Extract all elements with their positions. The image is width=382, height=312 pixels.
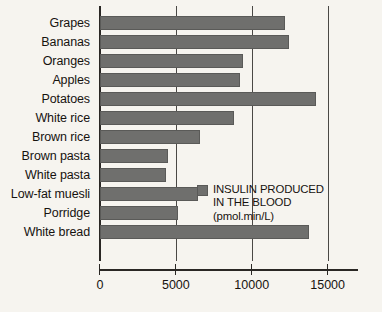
- bar-white-rice: [100, 111, 234, 125]
- bar-white-pasta: [100, 168, 166, 182]
- y-axis-label-low-fat-muesli: Low-fat muesli: [0, 185, 96, 204]
- x-axis-tick-5000: [175, 264, 176, 275]
- legend-label-line1: INSULIN PRODUCED: [213, 183, 324, 196]
- bar-bananas: [100, 35, 289, 49]
- legend-swatch-insulin: [197, 185, 208, 196]
- y-axis-label-white-bread: White bread: [0, 223, 96, 242]
- bar-white-bread: [100, 225, 309, 239]
- legend-label-units: (pmol.min/L): [213, 210, 324, 223]
- bar-grapes: [100, 16, 285, 30]
- y-axis-label-apples: Apples: [0, 71, 96, 90]
- gridline-15000: [328, 6, 329, 261]
- y-axis-label-white-rice: White rice: [0, 109, 96, 128]
- plot-area: [100, 14, 358, 261]
- x-axis-tick-15000: [327, 264, 328, 275]
- y-axis-label-oranges: Oranges: [0, 52, 96, 71]
- bar-brown-rice: [100, 130, 200, 144]
- legend-label: INSULIN PRODUCED IN THE BLOOD (pmol.min/…: [213, 183, 324, 223]
- bar-apples: [100, 73, 240, 87]
- bar-potatoes: [100, 92, 316, 106]
- y-axis-label-grapes: Grapes: [0, 14, 96, 33]
- x-axis-tick-label-0: 0: [97, 278, 104, 292]
- bar-low-fat-muesli: [100, 187, 198, 201]
- y-axis-label-bananas: Bananas: [0, 33, 96, 52]
- y-axis-label-white-pasta: White pasta: [0, 166, 96, 185]
- bar-brown-pasta: [100, 149, 168, 163]
- y-axis-label-porridge: Porridge: [0, 204, 96, 223]
- y-axis-label-brown-pasta: Brown pasta: [0, 147, 96, 166]
- y-axis-label-potatoes: Potatoes: [0, 90, 96, 109]
- insulin-bar-chart: GrapesBananasOrangesApplesPotatoesWhite …: [0, 0, 382, 312]
- x-axis-tick-label-15000: 15000: [310, 278, 345, 292]
- x-axis-line: [99, 269, 358, 271]
- x-axis-tick-label-10000: 10000: [234, 278, 269, 292]
- x-axis-tick-10000: [251, 264, 252, 275]
- legend: INSULIN PRODUCED IN THE BLOOD (pmol.min/…: [197, 183, 324, 223]
- legend-label-line2: IN THE BLOOD: [213, 196, 324, 209]
- bar-oranges: [100, 54, 243, 68]
- bar-porridge: [100, 206, 178, 220]
- x-axis-tick-0: [99, 264, 100, 275]
- y-axis-category-labels: GrapesBananasOrangesApplesPotatoesWhite …: [0, 14, 96, 242]
- y-axis-label-brown-rice: Brown rice: [0, 128, 96, 147]
- x-axis-tick-label-5000: 5000: [162, 278, 190, 292]
